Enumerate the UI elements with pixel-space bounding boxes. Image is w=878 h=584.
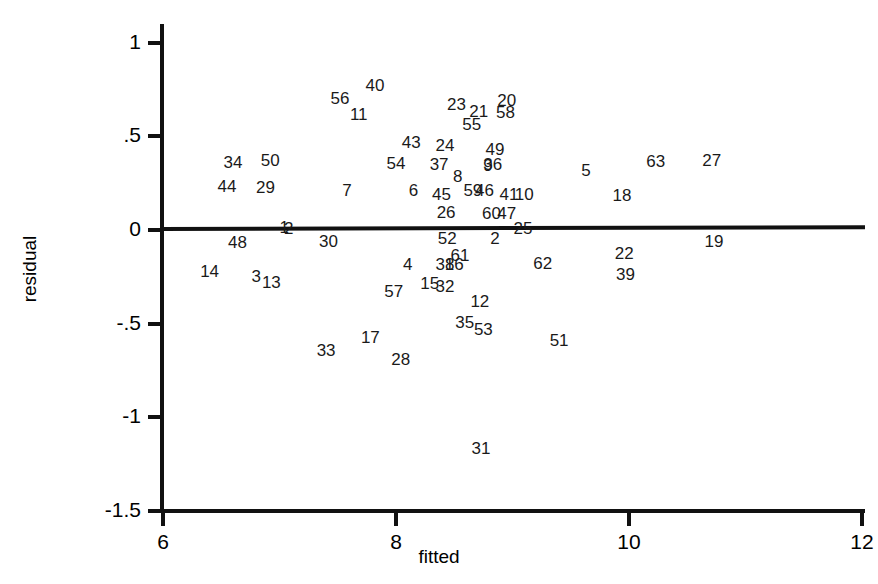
data-point-label: 6 [409,181,418,198]
data-point-label: 55 [462,116,481,133]
data-point-label: 7 [342,181,351,198]
data-point-label: 35 [455,313,474,330]
data-point-label: 3 [251,267,260,284]
data-point-label: 53 [474,321,493,338]
data-point-label: 24 [435,136,454,153]
data-point-label: 14 [200,263,219,280]
data-point-label: 50 [261,151,280,168]
y-axis-tick: 1 [148,41,161,45]
residual-vs-fitted-plot: residual fitted 1.50-.5-1-1.5 681012 405… [0,0,878,584]
data-point-label: 52 [438,230,457,247]
x-axis-tick-label: 12 [850,530,873,554]
data-point-label: 29 [256,178,275,195]
data-point-label: 12 [470,293,489,310]
data-point-label: 5 [581,162,590,179]
plot-area: 4056232021581155432449345054373696327584… [163,24,862,511]
data-point-label: 40 [366,76,385,93]
data-point-label: 2 [284,220,293,237]
data-point-label: 23 [447,95,466,112]
data-point-label: 22 [615,245,634,262]
data-point-label: 19 [705,233,724,250]
y-axis-tick-label: 0 [129,217,141,241]
data-point-label: 17 [361,328,380,345]
data-point-label: 56 [331,89,350,106]
data-point-label: 16 [445,255,464,272]
data-point-label: 31 [472,440,491,457]
data-point-label: 34 [223,153,242,170]
data-point-label: 26 [437,204,456,221]
x-axis-tick-label: 10 [617,530,640,554]
x-axis-tick: 6 [161,513,165,526]
data-point-label: 46 [475,181,494,198]
data-point-label: 51 [550,331,569,348]
y-axis-tick: -1.5 [148,509,161,513]
data-point-label: 62 [533,254,552,271]
data-point-label: 13 [262,273,281,290]
data-point-label: 32 [435,278,454,295]
y-axis-tick-label: -1 [122,404,141,428]
data-point-label: 48 [228,234,247,251]
y-axis-label: residual [19,209,41,329]
data-point-label: 27 [702,151,721,168]
data-point-label: 39 [616,266,635,283]
data-point-label: 8 [453,167,462,184]
data-point-label: 44 [218,178,237,195]
data-point-label: 63 [646,152,665,169]
y-axis-tick: -1 [148,415,161,419]
data-point-label: 25 [514,220,533,237]
data-point-label: 30 [319,233,338,250]
x-axis-tick: 12 [860,513,864,526]
y-axis-tick: .5 [148,134,161,138]
data-point-label: 4 [403,255,412,272]
x-axis-tick-label: 8 [390,530,402,554]
y-axis-tick-label: 1 [129,30,141,54]
data-point-label: 45 [432,185,451,202]
data-point-label: 43 [402,134,421,151]
x-axis-tick: 8 [394,513,398,526]
data-point-label: 28 [391,351,410,368]
data-point-label: 9 [483,157,492,174]
data-point-label: 2 [490,230,499,247]
y-axis-tick-label: .5 [123,123,141,147]
x-axis-tick: 10 [627,513,631,526]
data-point-label: 33 [317,341,336,358]
data-point-label: 37 [430,156,449,173]
x-axis-label: fitted [0,546,878,568]
data-point-label: 54 [387,154,406,171]
data-point-label: 10 [515,185,534,202]
y-axis-tick-label: -1.5 [105,498,141,522]
data-point-label: 11 [350,105,368,122]
y-axis-tick: 0 [148,228,161,232]
x-axis-tick-label: 6 [157,530,169,554]
data-point-label: 57 [384,282,403,299]
data-point-label: 58 [496,104,515,121]
y-axis-tick-label: -.5 [116,311,141,335]
y-axis-tick: -.5 [148,322,161,326]
data-point-label: 18 [613,187,632,204]
